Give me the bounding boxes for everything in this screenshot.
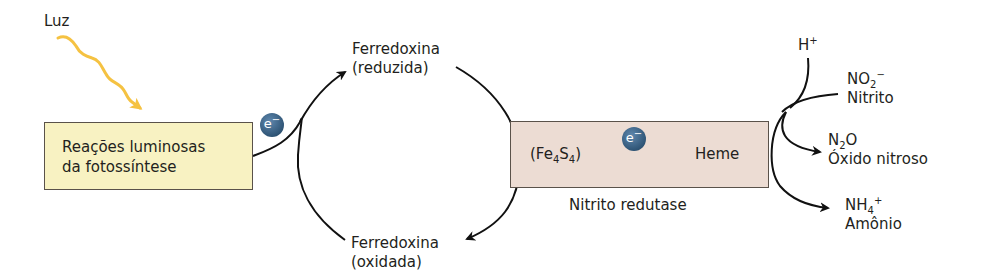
nh4-base: NH	[845, 196, 868, 214]
light-reactions-line2: da fotossíntese	[62, 157, 205, 177]
n2o-pre: N	[828, 131, 839, 149]
ferredoxin-reduced-line2: (reduzida)	[352, 59, 440, 78]
nitrite-label: NO2− Nitrito	[847, 70, 894, 108]
nh4-charge: +	[874, 195, 882, 206]
ammonium-output-arrow	[772, 112, 828, 208]
nitrous-oxide-output-arrow	[782, 112, 820, 152]
nitrite-reductase-label: Nitrito redutase	[569, 196, 687, 215]
nitrite-input-curve	[782, 94, 838, 112]
ferredoxin-reduced-line1: Ferredoxina	[352, 40, 440, 59]
fe4s4-cluster-label: (Fe4S4)	[530, 145, 581, 164]
ferredoxin-cycle-left-arc	[298, 119, 345, 240]
proton-base: H	[798, 36, 809, 54]
light-reactions-line1: Reações luminosas	[62, 137, 205, 157]
nitrous-oxide-name: Óxido nitroso	[828, 150, 928, 169]
ammonium-formula: NH4+	[845, 196, 902, 215]
electron-badge: e−	[260, 113, 284, 137]
electron-charge: −	[634, 128, 642, 139]
ferredoxin-oxidized-label: Ferredoxina (oxidada)	[351, 234, 439, 272]
light-wave-arrow	[58, 37, 140, 108]
ammonium-name: Amônio	[845, 215, 902, 234]
ferredoxin-oxidized-line1: Ferredoxina	[351, 234, 439, 253]
fe4s4-mid: S	[559, 145, 569, 163]
electron-badge-enzyme: e−	[622, 127, 646, 151]
n2o-post: O	[846, 131, 858, 149]
ammonium-label: NH4+ Amônio	[845, 196, 902, 234]
nitrite-base: NO	[847, 70, 870, 88]
nitrite-charge: −	[876, 69, 884, 80]
electron-symbol: e	[626, 130, 634, 145]
proton-label: H+	[798, 36, 818, 55]
light-label: Luz	[44, 12, 69, 31]
ferredoxin-oxidized-line2: (oxidada)	[351, 253, 439, 272]
electron-charge: −	[272, 114, 280, 125]
nitrous-oxide-formula: N2O	[828, 131, 928, 150]
ferredoxin-reduced-label: Ferredoxina (reduzida)	[352, 40, 440, 78]
electron-symbol: e	[264, 116, 272, 131]
heme-label: Heme	[695, 145, 739, 164]
light-reactions-box: Reações luminosas da fotossíntese	[44, 122, 253, 190]
proton-charge: +	[809, 35, 817, 46]
fe4s4-suffix: )	[575, 145, 581, 163]
nitrous-oxide-label: N2O Óxido nitroso	[828, 131, 928, 169]
nitrite-name: Nitrito	[847, 89, 894, 108]
nitrite-formula: NO2−	[847, 70, 894, 89]
fe4s4-prefix: (Fe	[530, 145, 553, 163]
